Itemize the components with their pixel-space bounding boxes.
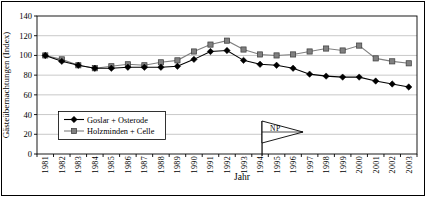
x-axis-tick-label: 1994 — [256, 156, 265, 174]
x-axis-tick-label: 1993 — [240, 156, 249, 174]
series-marker-holzminden-celle — [290, 52, 295, 57]
x-axis-tick-label: 1986 — [124, 156, 133, 174]
x-axis-tick-label: 1997 — [306, 156, 315, 174]
series-marker-holzminden-celle — [208, 42, 213, 47]
y-axis-tick-label: 40 — [24, 110, 33, 120]
x-axis-tick-label: 1989 — [173, 156, 182, 174]
series-marker-holzminden-celle — [274, 53, 279, 58]
y-axis-tick-label: 0 — [28, 149, 32, 159]
series-marker-holzminden-celle — [406, 61, 411, 66]
x-axis-title: Jahr — [234, 172, 251, 182]
series-marker-holzminden-celle — [340, 48, 345, 53]
chart-svg: 0204060801001201401981198219831984198519… — [0, 0, 426, 198]
x-axis-tick-label: 1983 — [74, 156, 83, 174]
x-axis-tick-label: 1982 — [58, 156, 67, 174]
x-axis-tick-label: 1995 — [273, 156, 282, 174]
x-axis-tick-label: 1991 — [206, 156, 215, 174]
chart-figure-frame: 0204060801001201401981198219831984198519… — [0, 0, 426, 198]
series-marker-holzminden-celle — [307, 49, 312, 54]
series-marker-holzminden-celle — [241, 47, 246, 52]
x-axis-tick-label: 1990 — [190, 156, 199, 174]
legend-label-holzminden-celle: Holzminden + Celle — [87, 127, 155, 136]
legend-label-goslar-osterode: Goslar + Osterode — [87, 116, 148, 125]
series-marker-holzminden-celle — [324, 46, 329, 51]
x-axis-tick-label: 1992 — [223, 156, 232, 174]
series-marker-holzminden-celle — [357, 43, 362, 48]
x-axis-tick-label: 2003 — [405, 156, 414, 174]
x-axis-tick-label: 1988 — [157, 156, 166, 174]
series-marker-holzminden-celle — [257, 52, 262, 57]
series-marker-holzminden-celle — [175, 58, 180, 63]
series-marker-holzminden-celle — [390, 59, 395, 64]
y-axis-title: Gästeübernachtungen (Index) — [1, 32, 11, 139]
x-axis-tick-label: 1987 — [140, 156, 149, 174]
flag-label: NP — [270, 124, 281, 133]
x-axis-tick-label: 2001 — [372, 156, 381, 174]
y-axis-tick-label: 80 — [24, 70, 33, 80]
y-axis-tick-label: 100 — [19, 50, 32, 60]
y-axis-tick-label: 20 — [24, 129, 33, 139]
x-axis-tick-label: 2000 — [355, 156, 364, 174]
legend-marker-holzminden-celle — [71, 128, 76, 133]
y-axis-tick-label: 120 — [19, 31, 32, 41]
x-axis-tick-label: 1984 — [91, 156, 100, 174]
x-axis-tick-label: 1996 — [289, 156, 298, 174]
y-axis-tick-label: 60 — [24, 90, 33, 100]
x-axis-tick-label: 2002 — [388, 156, 397, 174]
series-marker-holzminden-celle — [191, 49, 196, 54]
series-marker-holzminden-celle — [224, 38, 229, 43]
x-axis-tick-label: 1981 — [41, 156, 50, 174]
x-axis-tick-label: 1998 — [322, 156, 331, 174]
x-axis-tick-label: 1999 — [339, 156, 348, 174]
y-axis-tick-label: 140 — [19, 11, 32, 21]
series-marker-holzminden-celle — [373, 56, 378, 61]
x-axis-tick-label: 1985 — [107, 156, 116, 174]
